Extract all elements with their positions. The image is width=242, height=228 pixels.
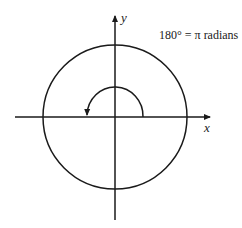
y-axis-label: y <box>121 10 127 26</box>
x-axis-label: x <box>204 120 210 136</box>
angle-caption: 180° = π radians <box>159 28 238 43</box>
